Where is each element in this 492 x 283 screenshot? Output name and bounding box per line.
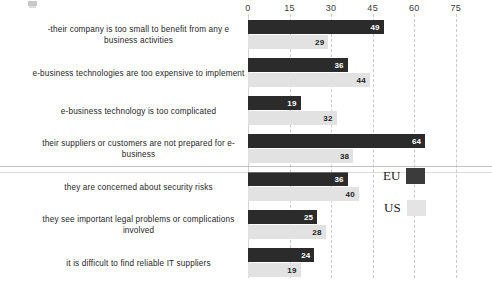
bar-group: 3644 [248,54,492,92]
bar-value-label: 29 [315,38,328,47]
chart-row: e-business technologies are too expensiv… [0,54,492,92]
bar-eu: 36 [248,58,348,72]
bar-eu: 36 [248,172,348,186]
x-axis-tick-75: 75 [450,3,461,13]
bar-eu: 25 [248,210,317,224]
bar-group: 4929 [248,16,492,54]
bar-value-label: 19 [287,99,300,108]
bar-group: 6438 [248,130,492,168]
x-axis-tick-30: 30 [326,3,337,13]
category-label: their suppliers or customers are not pre… [31,130,246,168]
legend-label-eu: EU [383,168,400,184]
bar-us: 19 [248,263,301,277]
bar-group: 1932 [248,92,492,130]
bar-value-label: 64 [412,137,425,146]
bar-eu: 64 [248,134,425,148]
x-axis-tick-45: 45 [367,3,378,13]
bar-value-label: 25 [304,213,317,222]
bar-us: 38 [248,149,353,163]
bar-value-label: 38 [340,152,353,161]
legend-item-us: US [384,200,426,216]
chart-row: -their company is too small to benefit f… [0,16,492,54]
bar-value-label: 40 [345,190,358,199]
bar-group: 2419 [248,244,492,282]
bar-value-label: 28 [312,228,325,237]
category-label: e-business technology is too complicated [31,92,246,130]
bar-value-label: 32 [323,114,336,123]
chart-row: it is difficult to find reliable IT supp… [0,244,492,282]
bar-us: 28 [248,225,326,239]
category-label: it is difficult to find reliable IT supp… [31,244,246,282]
bar-value-label: 36 [334,61,347,70]
x-axis-tick-60: 60 [409,3,420,13]
bar-value-label: 24 [301,251,314,260]
bar-value-label: 36 [334,175,347,184]
bar-us: 29 [248,35,328,49]
category-label: they are concerned about security risks [31,168,246,206]
bar-chart: 01530456075 -their company is too small … [0,0,492,283]
bar-eu: 19 [248,96,301,110]
legend-swatch-eu [406,168,425,184]
legend-label-us: US [384,200,401,216]
legend-item-eu: EU [383,168,425,184]
bar-group: 2528 [248,206,492,244]
bar-us: 32 [248,111,337,125]
x-axis-tick-15: 15 [284,3,295,13]
chart-rows: -their company is too small to benefit f… [0,16,492,282]
category-label: e-business technologies are too expensiv… [31,54,246,92]
chart-row: e-business technology is too complicated… [0,92,492,130]
category-label: -their company is too small to benefit f… [31,16,246,54]
x-axis-tick-0: 0 [245,3,250,13]
bar-value-label: 44 [357,76,370,85]
bar-us: 44 [248,73,370,87]
bar-group: 3640 [248,168,492,206]
chart-row: their suppliers or customers are not pre… [0,130,492,168]
bar-us: 40 [248,187,359,201]
bar-value-label: 19 [287,266,300,275]
bar-eu: 24 [248,248,314,262]
legend-swatch-us [407,200,426,216]
scan-artifact-rule [0,166,492,167]
bar-eu: 49 [248,20,384,34]
category-label: they see important legal problems or com… [31,206,246,244]
bar-value-label: 49 [370,23,383,32]
